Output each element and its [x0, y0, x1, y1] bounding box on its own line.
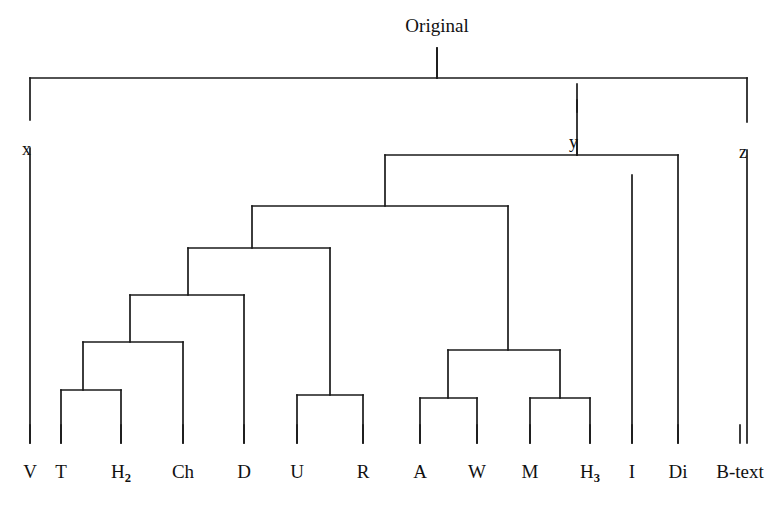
- leaf-label-r: R: [357, 462, 370, 481]
- dendrogram-figure: Original xyzVTH2ChDURAWMH3IDiB-text: [0, 0, 778, 515]
- leaf-label-t: T: [55, 462, 67, 481]
- leaf-label-di: Di: [669, 462, 688, 481]
- leaf-label-m: M: [522, 462, 539, 481]
- leaf-label-h3: H3: [580, 462, 600, 484]
- leaf-label-subscript: 2: [125, 471, 131, 485]
- drop-lines-group: [30, 78, 747, 443]
- leaf-label-i: I: [629, 462, 635, 481]
- leaf-label-subscript: 3: [594, 471, 600, 485]
- leaf-label-w: W: [468, 462, 486, 481]
- leaf-label-a: A: [413, 462, 427, 481]
- internal-node-label-z: z: [739, 143, 747, 161]
- leaf-label-h2: H2: [111, 462, 131, 484]
- internal-node-label-x: x: [22, 140, 31, 158]
- internal-node-label-y: y: [569, 133, 578, 151]
- leaf-label-ch: Ch: [172, 462, 194, 481]
- root-label: Original: [405, 16, 468, 35]
- leaf-label-b-text: B-text: [716, 462, 764, 481]
- leaf-label-u: U: [290, 462, 304, 481]
- leaf-label-d: D: [237, 462, 251, 481]
- tree-lines: [0, 0, 778, 515]
- leaf-label-v: V: [23, 462, 37, 481]
- clade-bars-group: [30, 48, 747, 398]
